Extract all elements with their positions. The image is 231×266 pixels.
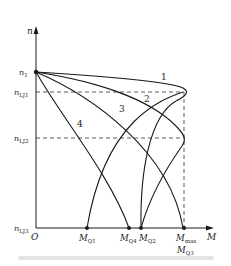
n1-point [34,70,38,74]
y-axis-arrow-icon [34,26,39,34]
figure-caption [18,256,214,260]
mq1-point [85,226,89,230]
origin-label: O [31,232,39,242]
curve-2-drawn [36,72,184,228]
x-tick-mq3: MQ3 [176,245,194,256]
y-axis-label: n [27,26,33,36]
mmax-point [182,226,186,230]
x-tick-mq1: MQ1 [78,233,96,244]
x-tick-mmax: Mmax [175,233,197,244]
curve-1 [36,72,187,228]
curve-label-2: 2 [144,94,150,104]
x-tick-mq4: MQ4 [119,233,137,244]
curve-label-1: 1 [161,72,167,82]
curve-label-3: 3 [119,104,125,114]
y-tick-nlj1: nLJ1 [14,88,29,99]
curve-label-4: 4 [77,119,83,129]
x-tick-mq2: MQ2 [138,233,156,244]
curve-4 [36,72,129,228]
y-tick-nlj2: nLJ2 [14,134,29,145]
y-tick-n1: n1 [19,68,28,78]
mq2-point [139,226,143,230]
curve-1-to-mq1 [87,92,183,228]
torque-speed-diagram: 1 2 3 4 n M O n1 nLJ1 nLJ2 nLJ3 MQ1 MQ4 … [0,0,231,266]
curve-2-main [36,72,184,228]
y-tick-nlj3: nLJ3 [14,224,29,235]
x-axis-arrow-icon [206,226,214,231]
mq4-point [127,226,131,230]
x-axis-label: M [206,232,217,242]
curve-3 [36,72,183,228]
